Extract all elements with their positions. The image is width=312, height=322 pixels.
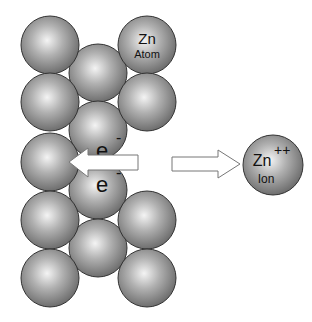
atom-name: Atom: [134, 48, 160, 60]
electron-bottom-charge: -: [116, 164, 121, 181]
atom-symbol: Zn: [138, 30, 156, 47]
ion-symbol: Zn: [253, 152, 272, 169]
zinc-atom-sphere: [118, 191, 176, 249]
zinc-atom-sphere: [118, 249, 176, 307]
electron-bottom-symbol: e: [96, 172, 108, 197]
zinc-atom-sphere: [118, 73, 176, 131]
ion-charge: ++: [274, 142, 290, 158]
ion-release-arrow: [172, 150, 240, 178]
zinc-atom-sphere: [21, 191, 79, 249]
ion-name: Ion: [258, 172, 275, 186]
zinc-oxidation-diagram: Zn Atom e - e - Zn ++ Ion: [0, 0, 312, 322]
zinc-atom-sphere: [21, 249, 79, 307]
electron-top-charge: -: [116, 129, 121, 146]
zinc-atom-sphere: [21, 16, 79, 74]
zinc-atom-sphere: [21, 73, 79, 131]
